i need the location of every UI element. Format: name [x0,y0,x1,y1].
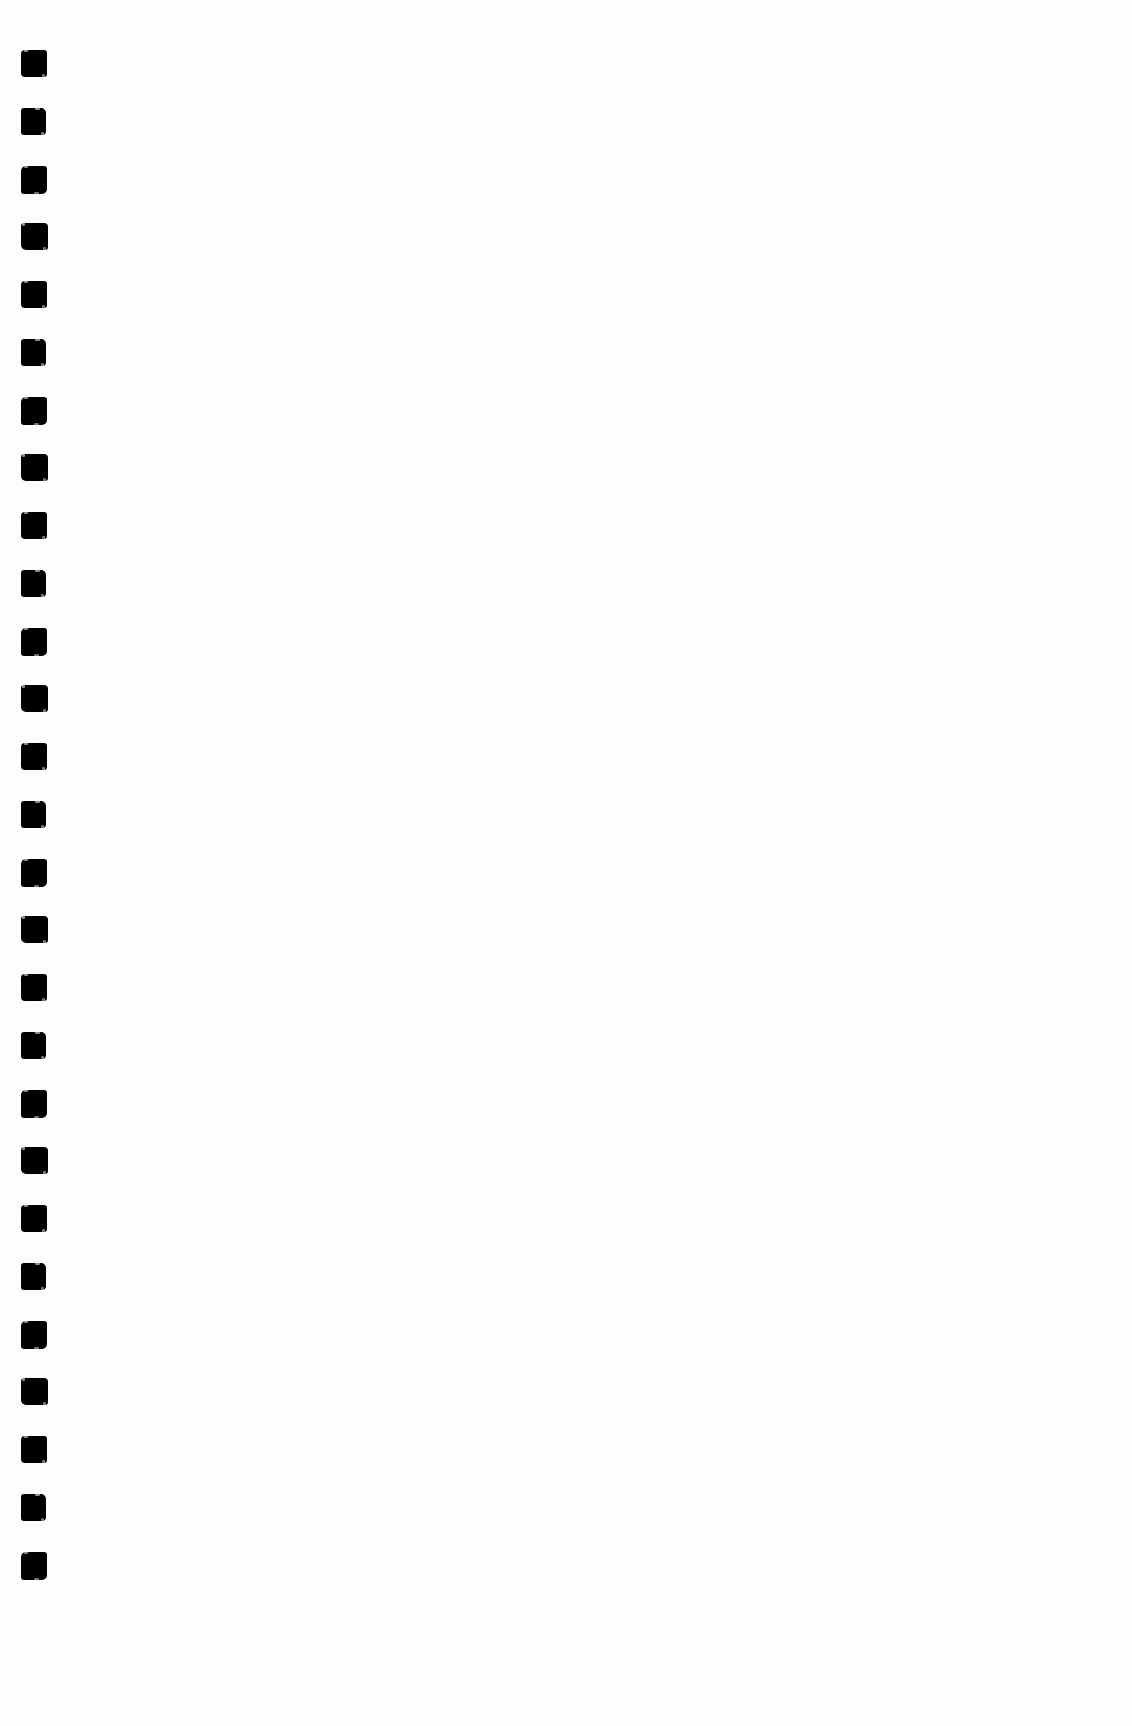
black-square-mark [21,223,48,250]
document-page [0,0,1132,1726]
black-square-mark [21,685,48,712]
black-square-mark [21,743,47,770]
black-square-mark [21,1263,46,1290]
black-square-mark [21,628,47,656]
black-square-mark [21,1494,46,1521]
black-square-mark [21,1321,47,1349]
black-square-mark [21,108,46,135]
registration-mark-column [0,0,70,1726]
black-square-mark [21,974,47,1001]
black-square-mark [21,339,46,366]
black-square-mark [21,859,47,887]
black-square-mark [21,397,47,425]
black-square-mark [21,166,47,194]
black-square-mark [21,281,47,308]
black-square-mark [21,1378,48,1405]
document-body-area [70,0,1132,1726]
black-square-mark [21,1032,46,1059]
black-square-mark [21,1147,48,1174]
black-square-mark [21,50,47,77]
black-square-mark [21,1436,47,1463]
black-square-mark [21,801,46,828]
black-square-mark [21,1552,47,1580]
black-square-mark [21,512,47,539]
black-square-mark [21,454,48,481]
black-square-mark [21,916,48,943]
black-square-mark [21,1090,47,1118]
black-square-mark [21,570,46,597]
black-square-mark [21,1205,47,1232]
